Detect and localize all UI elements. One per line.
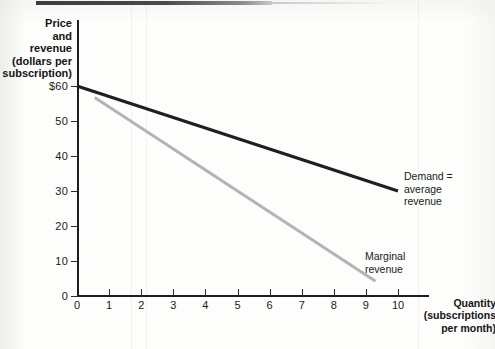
demand-curve-label: Demand = average revenue (404, 170, 492, 208)
y-axis-tick (71, 296, 78, 297)
x-axis-tick (366, 289, 367, 296)
top-scan-artifact-tail (272, 2, 384, 4)
y-axis-tick (71, 86, 78, 87)
y-axis-tick (71, 226, 78, 227)
demand-curve-label-line: Demand = (404, 170, 492, 183)
y-axis-tick-label: 40 (16, 150, 68, 162)
demand-curve-label-line: revenue (404, 195, 492, 208)
demand-line (77, 86, 398, 191)
x-axis-tick-label: 9 (354, 299, 378, 311)
x-axis-tick-label: 8 (322, 299, 346, 311)
figure-canvas: Price and revenue (dollars per subscript… (0, 0, 495, 349)
top-scan-artifact (36, 1, 272, 5)
marginal-revenue-line (95, 98, 376, 282)
y-axis-title-line: and (0, 30, 72, 43)
x-axis-tick (238, 289, 239, 296)
y-axis-tick (71, 191, 78, 192)
x-axis-title-line: per month) (404, 322, 495, 334)
marginal-revenue-label-line: Marginal (365, 250, 443, 263)
y-axis-tick (71, 156, 78, 157)
x-axis-title: Quantity (subscriptions per month) (404, 297, 495, 334)
y-axis-title-line: subscription) (0, 67, 72, 80)
x-axis-tick-label: 5 (226, 299, 250, 311)
x-axis-tick (398, 289, 399, 296)
x-axis-tick-label: 3 (161, 299, 185, 311)
x-axis-tick-label: 4 (193, 299, 217, 311)
marginal-revenue-curve-label: Marginal revenue (365, 250, 443, 275)
x-axis-tick-label: 0 (65, 299, 89, 311)
y-axis-line (77, 20, 79, 297)
y-axis-tick-label: $60 (16, 80, 68, 92)
x-axis-tick-label: 2 (129, 299, 153, 311)
x-axis-tick (270, 289, 271, 296)
y-axis-title-line: (dollars per (0, 55, 72, 68)
y-axis-tick-label: 30 (16, 185, 68, 197)
y-axis-title-line: Price (0, 17, 72, 30)
y-axis-title: Price and revenue (dollars per subscript… (0, 17, 72, 80)
y-axis-tick-label: 0 (16, 290, 68, 302)
x-axis-tick-label: 7 (290, 299, 314, 311)
x-axis-title-line: (subscriptions (404, 309, 495, 321)
y-axis-tick-label: 50 (16, 115, 68, 127)
y-axis-tick-label: 20 (16, 220, 68, 232)
x-axis-tick (141, 289, 142, 296)
y-axis-title-line: revenue (0, 42, 72, 55)
y-axis-tick (71, 121, 78, 122)
x-axis-tick-label: 6 (258, 299, 282, 311)
x-axis-tick (205, 289, 206, 296)
x-axis-tick (173, 289, 174, 296)
x-axis-title-line: Quantity (404, 297, 495, 309)
y-axis-tick-label: 10 (16, 255, 68, 267)
y-axis-tick (71, 261, 78, 262)
x-axis-line (77, 295, 429, 297)
x-axis-tick-label: 1 (97, 299, 121, 311)
marginal-revenue-label-line: revenue (365, 263, 443, 276)
demand-curve-label-line: average (404, 183, 492, 196)
x-axis-tick-label: 10 (386, 299, 410, 311)
x-axis-tick (302, 289, 303, 296)
x-axis-tick (109, 289, 110, 296)
x-axis-tick (334, 289, 335, 296)
